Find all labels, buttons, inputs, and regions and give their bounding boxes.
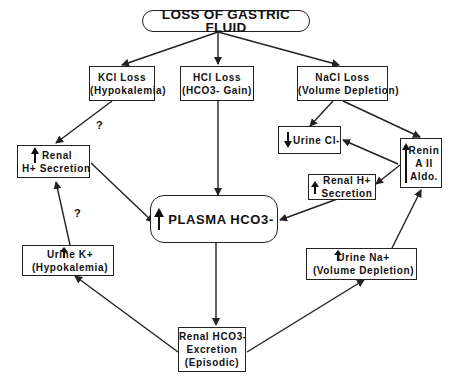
kcl-loss-node: KCl Loss (Hypokalemia) [89,66,155,101]
title-label: LOSS OF GASTRIC FLUID [143,8,309,34]
plasma-hco3-label: PLASMA HCO3- [168,213,274,226]
renin-aii-aldo-node: Renin A II Aldo. [400,138,442,188]
urine-k-line1: Urine K+ [27,248,113,261]
nacl-loss-line1: NaCl Loss [298,71,387,84]
renin-line2: A II [407,157,441,170]
up-arrow-icon-head [402,143,410,150]
question-mark-annotation: ? [74,207,81,219]
loss-of-gastric-fluid-node: LOSS OF GASTRIC FLUID [142,10,310,32]
hcl-loss-line2: (HCO3- Gain) [181,84,253,97]
kcl-loss-line1: KCl Loss [90,71,154,84]
renal-h-secretion-left-node: Renal H+ Secretion [17,145,90,178]
up-arrow-icon-head [60,247,68,252]
renal-h-secretion-right-node: Renal H+ Secretion [308,174,376,200]
renal-hco3-excretion-node: Renal HCO3- Excretion (Episodic) [178,327,246,372]
nacl-loss-node: NaCl Loss (Volume Depletion) [297,66,388,101]
up-arrow-icon-head [311,181,319,187]
renin-line3: Aldo. [407,170,441,183]
urine-k-node: Urine K+ (Hypokalemia) [22,245,114,276]
nacl-loss-line2: (Volume Depletion) [298,84,387,97]
renal-hco3-line3: (Episodic) [179,356,245,369]
down-arrow-icon [284,132,289,148]
renal-h-left-line2: H+ Secretion [22,162,89,175]
renal-hco3-line1: Renal HCO3- [179,330,245,343]
hcl-loss-node: HCl Loss (HCO3- Gain) [180,66,254,101]
urine-na-line1: Urine Na+ [311,251,416,264]
kcl-loss-line2: (Hypokalemia) [90,84,154,97]
up-arrow-icon-head [31,147,39,154]
question-mark-annotation: ? [96,119,103,131]
renin-line1: Renin [407,144,441,157]
urine-k-line2: (Hypokalemia) [27,261,113,274]
hcl-loss-line1: HCl Loss [181,71,253,84]
up-arrow-icon [154,208,164,230]
renal-h-right-line2: Secretion [319,187,375,200]
renal-hco3-line2: Excretion [179,343,245,356]
plasma-hco3-node: PLASMA HCO3- [150,195,278,243]
urine-na-node: Urine Na+ (Volume Depletion) [306,248,417,280]
up-arrow-icon [405,145,407,183]
urine-cl-label: Urine Cl- [293,134,340,147]
urine-na-line2: (Volume Depletion) [311,264,416,277]
up-arrow-icon-head [334,250,342,255]
renal-h-right-line1: Renal H+ [319,174,375,187]
urine-cl-node: Urine Cl- [278,126,341,154]
